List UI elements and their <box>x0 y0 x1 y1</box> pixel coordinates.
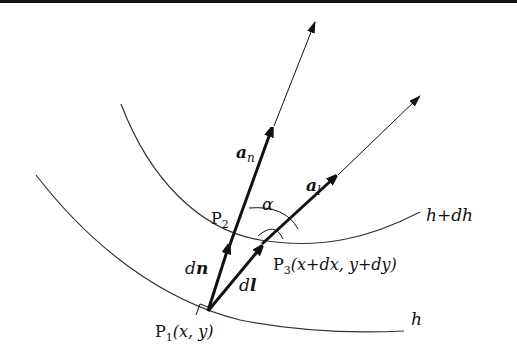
label-al: al <box>306 175 321 198</box>
label-an: an <box>236 142 255 165</box>
label-dn: dn <box>185 258 208 278</box>
label-dl: dl <box>239 275 257 295</box>
label-h-plus-dh: h+dh <box>426 205 473 225</box>
label-p1: P1(x, y) <box>155 322 213 344</box>
direction-extension-line <box>338 96 420 175</box>
label-p2: P2 <box>211 209 229 231</box>
curve-h-plus-dh <box>121 104 420 244</box>
normal-extension-line <box>274 22 315 126</box>
vector-dn <box>208 245 229 311</box>
diagram-canvas: an al P2 α dn dl P3(x+dx, y+dy) P1(x, y)… <box>0 0 517 362</box>
curve-h <box>36 175 404 332</box>
vector-an <box>228 128 272 250</box>
label-p3: P3(x+dx, y+dy) <box>273 255 397 277</box>
label-alpha: α <box>262 194 274 214</box>
label-h: h <box>411 309 422 329</box>
